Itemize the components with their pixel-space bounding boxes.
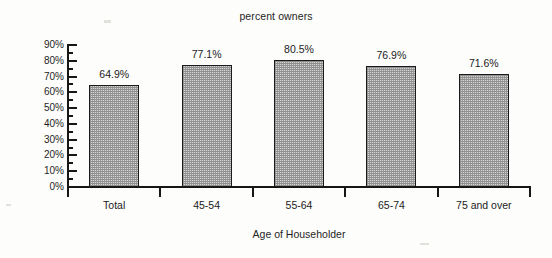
x-axis-tick (529, 188, 531, 197)
x-axis-category-label: 65-74 (345, 199, 437, 211)
x-axis-category-label: Total (68, 199, 160, 211)
bar (366, 66, 416, 187)
bar-value-label: 80.5% (269, 44, 329, 55)
bar (274, 60, 324, 187)
y-axis-label: 40% (18, 119, 64, 129)
scan-speckle (420, 243, 429, 245)
y-axis-label: 50% (18, 103, 64, 113)
bar (459, 74, 509, 187)
chart-title: percent owners (0, 10, 552, 22)
x-axis-tick (159, 188, 161, 197)
y-axis-label: 20% (18, 150, 64, 160)
bar (89, 85, 139, 187)
y-axis-label: 30% (18, 135, 64, 145)
x-axis-category-label: 75 and over (438, 199, 530, 211)
y-axis-label: 90% (18, 40, 64, 50)
y-axis-label: 60% (18, 87, 64, 97)
y-axis-label: 80% (18, 56, 64, 66)
y-axis-label: 70% (18, 72, 64, 82)
bar-value-label: 71.6% (454, 58, 514, 69)
bar-value-label: 76.9% (361, 50, 421, 61)
y-axis-label: 0% (18, 182, 64, 192)
x-axis-tick (252, 188, 254, 197)
y-axis-label: 10% (18, 166, 64, 176)
bar (182, 65, 232, 187)
x-axis-category-label: 55-64 (253, 199, 345, 211)
bar-value-label: 77.1% (177, 49, 237, 60)
scan-speckle (6, 204, 11, 206)
x-axis-tick (67, 188, 69, 197)
x-axis-tick (344, 188, 346, 197)
x-axis-category-label: 45-54 (161, 199, 253, 211)
bar-value-label: 64.9% (84, 69, 144, 80)
x-axis-title: Age of Householder (68, 228, 530, 240)
bar-chart-figure: percent owners 90%80%70%60%50%40%30%20%1… (0, 0, 552, 258)
x-axis-tick (437, 188, 439, 197)
